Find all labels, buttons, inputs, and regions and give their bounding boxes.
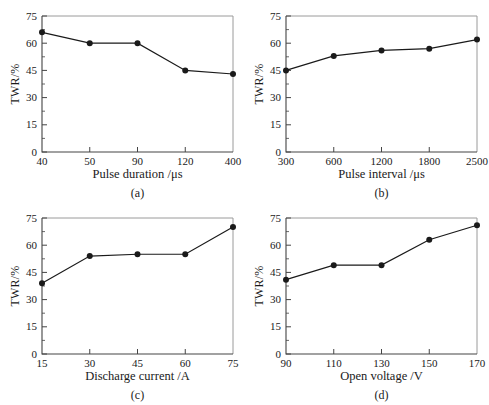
svg-text:45: 45 bbox=[26, 64, 38, 76]
svg-text:90: 90 bbox=[281, 357, 293, 369]
chart-panel-d: 0153045607590110130150170 TWR/% Open vol… bbox=[244, 202, 489, 405]
svg-text:15: 15 bbox=[26, 118, 38, 130]
svg-text:130: 130 bbox=[373, 357, 390, 369]
svg-text:75: 75 bbox=[270, 212, 282, 224]
svg-text:40: 40 bbox=[37, 155, 49, 167]
svg-text:90: 90 bbox=[132, 155, 144, 167]
svg-text:50: 50 bbox=[84, 155, 96, 167]
panel-label-d: (d) bbox=[286, 388, 477, 403]
y-axis-label-a: TWR/% bbox=[8, 64, 23, 105]
svg-text:120: 120 bbox=[177, 155, 194, 167]
svg-text:2500: 2500 bbox=[466, 155, 489, 167]
svg-text:300: 300 bbox=[278, 155, 295, 167]
svg-text:45: 45 bbox=[270, 266, 282, 278]
svg-text:60: 60 bbox=[270, 239, 282, 251]
figure-twr-four-panel: 01530456075405090120400 TWR/% Pulse dura… bbox=[0, 0, 489, 405]
plot-area-c: 015304560751530456075 bbox=[0, 202, 245, 362]
plot-area-d: 0153045607590110130150170 bbox=[244, 202, 489, 362]
svg-text:75: 75 bbox=[270, 10, 282, 22]
svg-text:60: 60 bbox=[26, 239, 38, 251]
svg-text:15: 15 bbox=[270, 320, 282, 332]
svg-text:400: 400 bbox=[225, 155, 242, 167]
chart-panel-b: 01530456075300600120018002500 TWR/% Puls… bbox=[244, 0, 489, 202]
x-axis-label-b: Pulse interval /μs bbox=[286, 167, 477, 182]
y-axis-label-d: TWR/% bbox=[252, 266, 267, 307]
svg-text:30: 30 bbox=[270, 293, 282, 305]
svg-text:45: 45 bbox=[270, 64, 282, 76]
svg-text:110: 110 bbox=[326, 357, 343, 369]
svg-text:30: 30 bbox=[84, 357, 96, 369]
panel-label-a: (a) bbox=[42, 186, 233, 201]
plot-area-a: 01530456075405090120400 bbox=[0, 0, 245, 160]
x-axis-label-c: Discharge current /A bbox=[42, 369, 233, 384]
svg-text:15: 15 bbox=[26, 320, 38, 332]
svg-text:30: 30 bbox=[270, 91, 282, 103]
svg-text:75: 75 bbox=[26, 10, 38, 22]
svg-text:45: 45 bbox=[26, 266, 38, 278]
y-axis-label-c: TWR/% bbox=[8, 266, 23, 307]
svg-text:30: 30 bbox=[26, 91, 38, 103]
y-axis-label-b: TWR/% bbox=[252, 64, 267, 105]
chart-panel-a: 01530456075405090120400 TWR/% Pulse dura… bbox=[0, 0, 244, 202]
svg-text:30: 30 bbox=[26, 293, 38, 305]
svg-text:75: 75 bbox=[26, 212, 38, 224]
svg-text:1800: 1800 bbox=[418, 155, 441, 167]
x-axis-label-d: Open voltage /V bbox=[286, 369, 477, 384]
svg-text:15: 15 bbox=[37, 357, 49, 369]
svg-text:60: 60 bbox=[26, 37, 38, 49]
svg-text:150: 150 bbox=[421, 357, 438, 369]
panel-label-c: (c) bbox=[42, 388, 233, 403]
svg-text:1200: 1200 bbox=[371, 155, 394, 167]
svg-text:600: 600 bbox=[326, 155, 343, 167]
svg-text:60: 60 bbox=[180, 357, 192, 369]
plot-area-b: 01530456075300600120018002500 bbox=[244, 0, 489, 160]
svg-text:75: 75 bbox=[228, 357, 240, 369]
x-axis-label-a: Pulse duration /μs bbox=[42, 167, 233, 182]
svg-text:60: 60 bbox=[270, 37, 282, 49]
panel-label-b: (b) bbox=[286, 186, 477, 201]
svg-text:15: 15 bbox=[270, 118, 282, 130]
svg-text:45: 45 bbox=[132, 357, 144, 369]
chart-panel-c: 015304560751530456075 TWR/% Discharge cu… bbox=[0, 202, 244, 405]
svg-text:170: 170 bbox=[469, 357, 486, 369]
